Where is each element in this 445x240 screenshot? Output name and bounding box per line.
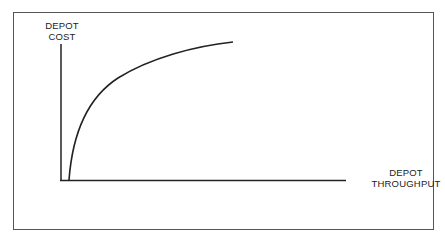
cost-curve (69, 42, 233, 180)
y-axis-label-line2: COST (40, 31, 84, 42)
x-axis-label: DEPOT THROUGHPUT (368, 167, 444, 189)
y-axis-label-line1: DEPOT (40, 20, 84, 31)
x-axis-label-line2: THROUGHPUT (368, 178, 444, 189)
x-axis-label-line1: DEPOT (368, 167, 444, 178)
y-axis-label: DEPOT COST (40, 20, 84, 42)
